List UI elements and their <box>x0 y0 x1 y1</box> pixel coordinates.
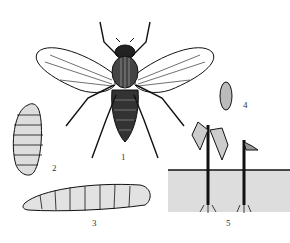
damaged-seedlings <box>168 122 290 213</box>
label-larva: 3 <box>92 218 97 228</box>
adult-fly <box>36 22 214 158</box>
label-egg: 4 <box>243 100 248 110</box>
figure-caption <box>110 236 200 243</box>
egg <box>220 82 232 110</box>
fly-life-cycle-illustration <box>0 0 290 243</box>
label-pupa: 2 <box>52 163 57 173</box>
pupa <box>13 104 43 175</box>
label-adult: 1 <box>121 152 126 162</box>
label-damage: 5 <box>226 218 231 228</box>
larva <box>23 184 150 211</box>
